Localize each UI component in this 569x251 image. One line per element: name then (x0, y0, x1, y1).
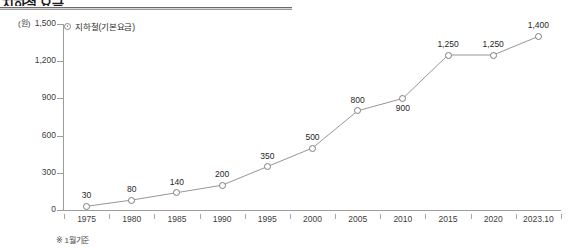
data-point-label: 1,250 (473, 40, 513, 49)
data-point-label: 900 (383, 104, 423, 113)
data-point-label: 30 (67, 191, 107, 200)
data-point-label: 500 (293, 133, 333, 142)
data-point-label: 80 (112, 185, 152, 194)
data-point-marker (490, 52, 497, 59)
data-point-label: 800 (338, 96, 378, 105)
data-point-label: 140 (157, 178, 197, 187)
series-line (0, 0, 569, 251)
chart-page: 지하철 요금 1,5001,2009006003000 (원) 19751980… (0, 0, 569, 251)
data-point-marker (219, 182, 226, 189)
data-point-label: 350 (247, 152, 287, 161)
data-point-label: 1,400 (518, 21, 558, 30)
chart-footnote: ※ 1월기준 (56, 234, 89, 245)
data-point-label: 200 (202, 170, 242, 179)
data-point-marker (309, 145, 316, 152)
data-point-marker (264, 163, 271, 170)
data-point-marker (535, 33, 542, 40)
data-point-marker (128, 197, 135, 204)
data-point-marker (445, 52, 452, 59)
data-point-marker (83, 203, 90, 210)
data-point-label: 1,250 (428, 40, 468, 49)
